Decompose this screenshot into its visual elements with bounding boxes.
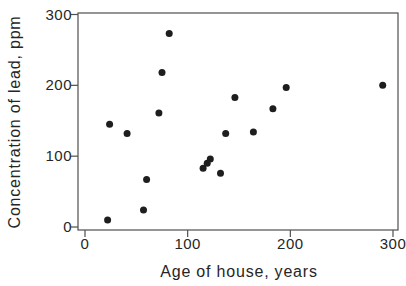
data-point xyxy=(207,156,214,163)
data-point xyxy=(143,176,150,183)
y-axis-title: Concentration of lead, ppm xyxy=(6,16,23,229)
data-point xyxy=(140,207,147,214)
x-axis-title: Age of house, years xyxy=(160,263,318,280)
data-point xyxy=(379,82,386,89)
plot-frame xyxy=(78,13,398,230)
data-point xyxy=(155,110,162,117)
x-tick-label: 200 xyxy=(277,235,304,252)
data-point xyxy=(106,121,113,128)
data-point xyxy=(231,94,238,101)
data-point xyxy=(104,216,111,223)
scatter-plot-figure: 01002003000100200300Age of house, yearsC… xyxy=(0,0,406,286)
data-point xyxy=(222,130,229,137)
y-tick-label: 0 xyxy=(63,218,72,235)
x-tick-label: 0 xyxy=(81,235,90,252)
data-point xyxy=(166,30,173,37)
y-tick-label: 300 xyxy=(45,6,72,23)
data-point xyxy=(124,130,131,137)
x-tick-label: 100 xyxy=(174,235,201,252)
data-point xyxy=(250,129,257,136)
y-tick-label: 100 xyxy=(45,147,72,164)
y-tick-label: 200 xyxy=(45,76,72,93)
data-point xyxy=(283,84,290,91)
data-point xyxy=(269,105,276,112)
scatter-chart: 01002003000100200300Age of house, yearsC… xyxy=(0,0,406,286)
x-tick-label: 300 xyxy=(380,235,406,252)
data-point xyxy=(159,69,166,76)
data-point xyxy=(217,170,224,177)
